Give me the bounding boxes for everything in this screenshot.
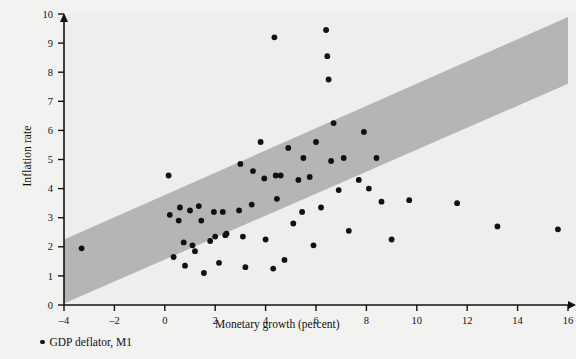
x-tick-label: –2 [108, 315, 120, 326]
data-point [406, 197, 412, 203]
data-point [301, 155, 307, 161]
y-tick-label: 1 [48, 271, 53, 282]
data-point [290, 221, 296, 227]
data-point [243, 264, 249, 270]
data-point [201, 270, 207, 276]
legend: GDP deflator, M1 [40, 336, 132, 348]
data-point [258, 139, 264, 145]
data-point [278, 173, 284, 179]
data-point [212, 234, 218, 240]
data-point [313, 139, 319, 145]
data-point [323, 27, 329, 33]
data-point [216, 260, 222, 266]
data-point [249, 202, 255, 208]
legend-label: GDP deflator, M1 [50, 336, 132, 348]
x-tick-label: 0 [162, 315, 167, 326]
data-point [324, 53, 330, 59]
y-axis-label: Inflation rate [21, 96, 33, 216]
data-point [220, 209, 226, 215]
data-point [331, 120, 337, 126]
plot-canvas: –4–20246810121416 012345678910 [0, 0, 576, 359]
y-tick-label: 2 [48, 241, 53, 252]
data-point [167, 212, 173, 218]
data-point [261, 176, 267, 182]
data-point [224, 231, 230, 237]
y-tick-label: 4 [48, 183, 54, 194]
data-point [285, 145, 291, 151]
data-point [270, 266, 276, 272]
data-point [374, 155, 380, 161]
data-point [299, 209, 305, 215]
data-point [318, 205, 324, 211]
data-point [389, 237, 395, 243]
data-point [361, 129, 367, 135]
x-tick-label: –4 [58, 315, 70, 326]
scatter-chart: –4–20246810121416 012345678910 Inflation… [0, 0, 576, 359]
data-point [495, 224, 501, 230]
data-point [328, 158, 334, 164]
data-point [207, 238, 213, 244]
data-point [236, 208, 242, 214]
data-point [272, 34, 278, 40]
y-tick-label: 6 [48, 125, 53, 136]
y-tick-label: 9 [48, 38, 53, 49]
y-tick-label: 3 [48, 212, 53, 223]
data-point [311, 242, 317, 248]
data-point [274, 196, 280, 202]
data-point [171, 254, 177, 260]
data-point [196, 203, 202, 209]
data-point [187, 208, 193, 214]
x-tick-label: 12 [462, 315, 473, 326]
x-axis-label: Monetary growth (percent) [215, 318, 340, 330]
data-point [198, 218, 204, 224]
data-point [182, 263, 188, 269]
x-tick-label: 16 [563, 315, 574, 326]
data-point [454, 200, 460, 206]
data-point [346, 228, 352, 234]
data-point [336, 187, 342, 193]
data-point [166, 173, 172, 179]
data-point [273, 173, 279, 179]
data-point [190, 242, 196, 248]
data-point [366, 186, 372, 192]
data-point [307, 174, 313, 180]
data-point [238, 161, 244, 167]
data-point [341, 155, 347, 161]
data-point [296, 177, 302, 183]
x-tick-label: 14 [512, 315, 523, 326]
data-point [181, 240, 187, 246]
data-point [326, 77, 332, 83]
data-point [263, 237, 269, 243]
y-tick-label: 8 [48, 67, 53, 78]
y-tick-label: 10 [43, 9, 54, 20]
data-point [356, 177, 362, 183]
y-tick-label: 0 [48, 300, 53, 311]
data-point [211, 209, 217, 215]
data-point [250, 168, 256, 174]
data-point [240, 234, 246, 240]
legend-marker-icon [40, 340, 45, 345]
data-point [555, 226, 561, 232]
data-point [79, 245, 85, 251]
data-point [176, 218, 182, 224]
y-axis-ticks: 012345678910 [43, 9, 65, 311]
data-point [379, 199, 385, 205]
data-point [282, 257, 288, 263]
y-tick-label: 5 [48, 154, 53, 165]
data-point [192, 248, 198, 254]
x-tick-label: 8 [364, 315, 369, 326]
y-tick-label: 7 [48, 96, 53, 107]
data-point [177, 205, 183, 211]
x-tick-label: 10 [412, 315, 423, 326]
